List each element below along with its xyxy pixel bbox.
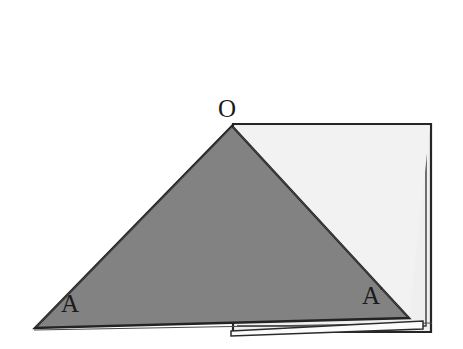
- vertex-label-a-prime: A′: [362, 283, 383, 308]
- vertex-label-o: O: [218, 96, 236, 121]
- figure-canvas: O A A′: [0, 0, 463, 349]
- vertex-label-a: A: [61, 291, 79, 316]
- vertex-label-a-prime-base: A: [362, 282, 380, 309]
- vertex-label-a-prime-superscript: ′: [380, 283, 383, 298]
